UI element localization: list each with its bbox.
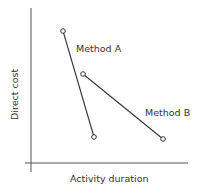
method-b-start-marker xyxy=(81,72,86,77)
method-a-end-marker xyxy=(92,135,97,140)
method-a-start-marker xyxy=(61,29,66,34)
method-b-label: Method B xyxy=(145,107,190,118)
method-b-end-marker xyxy=(161,137,166,142)
method-a-label: Method A xyxy=(76,43,122,54)
x-axis-label: Activity duration xyxy=(70,173,149,184)
y-axis-label: Direct cost xyxy=(9,69,20,120)
chart: Method A Method B Activity duration Dire… xyxy=(0,0,199,194)
